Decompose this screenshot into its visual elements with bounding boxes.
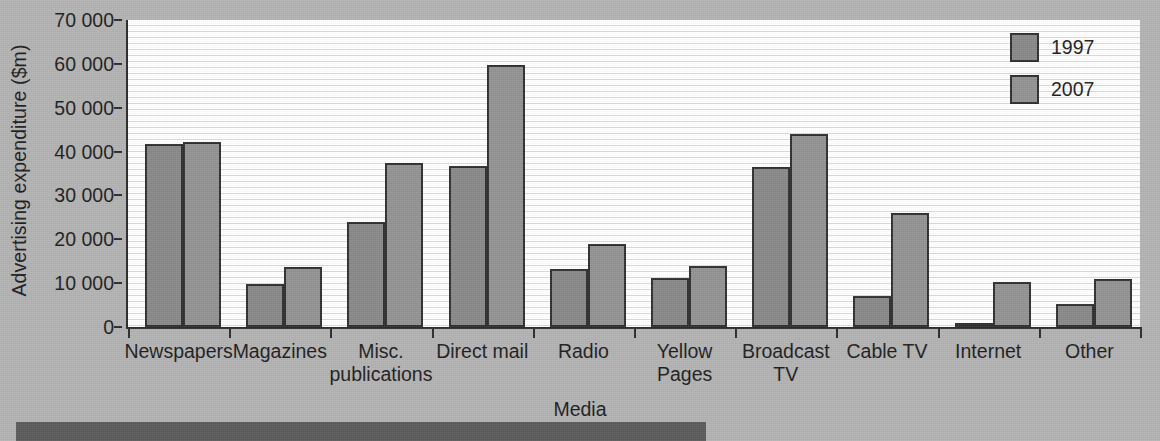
bottom-banner-bar (16, 422, 706, 441)
legend-label: 1997 (1051, 36, 1094, 59)
x-tick-mark (330, 329, 332, 338)
x-tick-mark (533, 329, 535, 338)
chart-legend: 19972007 (1010, 32, 1094, 116)
legend-swatch (1010, 75, 1039, 104)
x-axis-title: Media (0, 398, 1160, 421)
x-tick-mark (836, 329, 838, 338)
legend-item[interactable]: 1997 (1010, 32, 1094, 62)
x-tick-mark (229, 329, 231, 338)
x-axis-ticks: NewspapersMagazinesMisc. publicationsDir… (0, 0, 1160, 441)
chart-figure: Advertising expenditure ($m) 010 00020 0… (0, 0, 1160, 441)
x-tick-label: Other (1027, 340, 1152, 363)
x-tick-mark (1140, 329, 1142, 338)
x-tick-mark (1039, 329, 1041, 338)
legend-label: 2007 (1051, 78, 1094, 101)
x-tick-mark (432, 329, 434, 338)
x-tick-mark (735, 329, 737, 338)
legend-item[interactable]: 2007 (1010, 74, 1094, 104)
x-tick-mark (634, 329, 636, 338)
x-tick-mark (128, 329, 130, 338)
x-tick-mark (938, 329, 940, 338)
legend-swatch (1010, 33, 1039, 62)
